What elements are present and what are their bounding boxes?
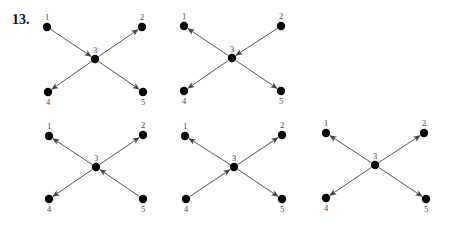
node-2 (138, 23, 146, 31)
node-3 (228, 54, 236, 62)
node-label-1: 1 (45, 12, 49, 22)
node-label-1: 1 (182, 11, 186, 21)
graph-2: 12345 (180, 11, 285, 106)
edge-3-to-2 (379, 136, 421, 163)
node-5 (139, 195, 147, 203)
node-2 (139, 131, 147, 139)
node-3 (230, 163, 238, 171)
node-4 (322, 194, 330, 202)
node-label-5: 5 (141, 97, 145, 107)
edge-3-to-1 (188, 29, 229, 56)
node-label-2: 2 (280, 120, 284, 130)
edge-3-to-5 (99, 61, 140, 89)
edge-3-to-5 (379, 167, 423, 196)
graphs-root: 1234512345123451234512345 (43, 11, 430, 214)
edge-3-to-4 (330, 167, 372, 195)
node-1 (322, 129, 330, 137)
edge-3-to-4 (52, 61, 92, 89)
node-5 (278, 195, 286, 203)
edge-3-to-5 (238, 169, 279, 196)
node-label-2: 2 (140, 12, 144, 22)
node-label-5: 5 (280, 204, 284, 214)
directed-graphs-figure: 1234512345123451234512345 (0, 0, 452, 228)
edge-3-to-4 (53, 169, 93, 196)
node-label-2: 2 (279, 11, 283, 21)
graph-1: 12345 (43, 12, 147, 107)
node-label-4: 4 (324, 203, 329, 213)
edge-4-to-3 (190, 170, 231, 197)
node-4 (44, 88, 52, 96)
edge-3-to-4 (188, 60, 229, 88)
node-2 (278, 131, 286, 139)
node-label-4: 4 (47, 204, 52, 214)
node-4 (182, 195, 190, 203)
node-label-3: 3 (93, 45, 97, 55)
node-4 (45, 195, 53, 203)
node-3 (371, 161, 379, 169)
node-1 (43, 23, 51, 31)
node-5 (277, 87, 285, 95)
node-4 (180, 87, 188, 95)
node-2 (277, 22, 285, 30)
edge-1-to-3 (51, 29, 92, 56)
node-label-2: 2 (422, 118, 426, 128)
edge-3-to-5 (236, 60, 278, 88)
node-label-1: 1 (183, 121, 187, 131)
node-label-5: 5 (279, 96, 283, 106)
graph-5: 12345 (322, 118, 430, 214)
node-label-5: 5 (424, 204, 428, 214)
node-label-5: 5 (141, 204, 145, 214)
edge-3-to-1 (53, 139, 93, 165)
node-3 (91, 55, 99, 63)
node-1 (45, 132, 53, 140)
node-label-2: 2 (141, 120, 145, 130)
node-label-3: 3 (230, 44, 234, 54)
node-3 (92, 163, 100, 171)
edge-3-to-2 (238, 138, 279, 165)
node-1 (180, 22, 188, 30)
node-1 (181, 132, 189, 140)
edge-3-to-1 (330, 136, 372, 163)
edge-3-to-2 (100, 138, 140, 165)
node-5 (139, 88, 147, 96)
node-2 (420, 129, 428, 137)
node-label-4: 4 (46, 97, 51, 107)
edge-5-to-3 (100, 170, 140, 197)
node-5 (422, 195, 430, 203)
node-label-3: 3 (373, 151, 377, 161)
edge-3-to-1 (189, 139, 231, 165)
node-label-1: 1 (324, 118, 328, 128)
edge-2-to-3 (236, 28, 278, 55)
graph-4: 12345 (181, 120, 286, 214)
node-label-3: 3 (94, 153, 98, 163)
node-label-4: 4 (182, 96, 187, 106)
node-label-4: 4 (184, 204, 189, 214)
node-label-1: 1 (47, 121, 51, 131)
node-label-3: 3 (232, 153, 236, 163)
edge-3-to-2 (99, 30, 139, 57)
graph-3: 12345 (45, 120, 147, 214)
